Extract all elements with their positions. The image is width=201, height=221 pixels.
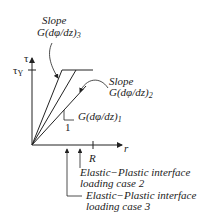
tau-y-label: τY	[13, 64, 23, 78]
r-axis-label: r	[124, 142, 129, 154]
profile-case-2	[32, 70, 76, 145]
slope-triangle-label: 1	[65, 121, 71, 133]
slope3-formula: G(dφ/dz)3	[37, 26, 81, 40]
slope3-title: Slope	[42, 14, 67, 26]
tau-axis-label: τ	[24, 52, 29, 64]
profile-case-3	[32, 70, 93, 145]
r-tick-label: R	[88, 152, 96, 164]
slope2-leader	[80, 80, 108, 92]
slope1-formula: G(dφ/dz)1	[78, 110, 122, 124]
interface-case3-line2: loading case 3	[86, 200, 151, 212]
slope3-leader	[50, 43, 58, 78]
torsion-stress-diagram: 1 τ τY r R Slope G(dφ/dz)3 Slope G(dφ/dz…	[0, 0, 201, 221]
interface-case2-line2: loading case 2	[80, 177, 145, 189]
slope-triangle	[64, 110, 74, 120]
slope2-formula: G(dφ/dz)2	[109, 86, 153, 100]
